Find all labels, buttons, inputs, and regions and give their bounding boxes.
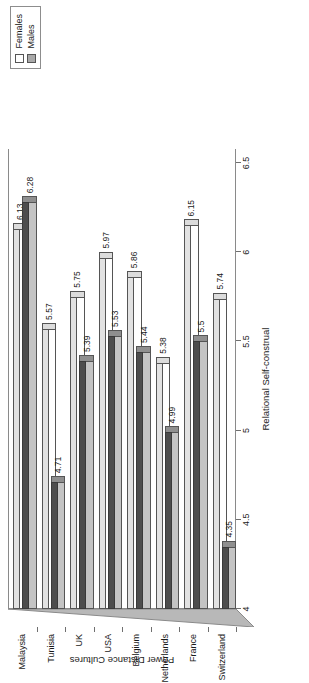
bar-top-face	[184, 225, 191, 609]
bar-value-label: 5.5	[196, 321, 206, 333]
bar-front-face	[199, 341, 208, 609]
bar-top-face	[70, 297, 77, 609]
bar-top-face	[99, 258, 106, 609]
bar-top-face	[222, 547, 229, 609]
legend-item-males: Males	[27, 14, 36, 63]
value-axis-tick-label: 4	[241, 606, 251, 611]
bar-top-face	[22, 202, 29, 609]
value-axis-title: Relational Self-construal	[260, 149, 271, 609]
chart-legend: Females Males	[10, 6, 41, 69]
bar-front-face	[114, 336, 123, 609]
category-axis-tick-label: UK	[74, 634, 84, 647]
bar-top-face	[136, 352, 143, 609]
plot-area: 5.744.356.155.55.384.995.865.445.975.535…	[8, 149, 254, 627]
bar-value-label: 5.97	[101, 232, 111, 249]
bar-front-face	[85, 361, 94, 609]
bar-value-label: 5.38	[158, 337, 168, 354]
bar-top-face	[213, 299, 220, 609]
bar-males-belgium	[136, 352, 151, 609]
bar-males-uk	[79, 361, 94, 609]
bar-front-face	[142, 352, 151, 609]
category-axis-title: Power Distance Cultures	[8, 653, 236, 667]
bar-males-usa	[108, 336, 123, 609]
bar-value-label: 6.28	[25, 177, 35, 194]
bar-males-france	[193, 341, 208, 609]
value-axis: 44.555.566.5	[236, 149, 254, 609]
bar-top-face	[79, 361, 86, 609]
bar-males-switzerland	[222, 547, 237, 609]
value-axis-tick-label: 6	[241, 250, 251, 255]
bar-males-tunisia	[51, 482, 66, 609]
legend-label-females: Females	[15, 14, 24, 49]
value-axis-tick-label: 6.5	[241, 157, 251, 170]
filled-square-marker-icon	[27, 54, 36, 63]
value-axis-tick-label: 5	[241, 428, 251, 433]
bar-top-face	[165, 432, 172, 609]
bar-value-label: 4.71	[53, 457, 63, 474]
bar-value-label: 4.35	[224, 521, 234, 538]
bar-value-label: 5.75	[72, 271, 82, 288]
bar-value-label: 5.39	[82, 335, 92, 352]
bar-series-container: 5.744.356.155.55.384.995.865.445.975.535…	[8, 149, 236, 609]
open-square-marker-icon	[15, 54, 24, 63]
category-axis-tick	[151, 627, 152, 632]
category-axis-tick	[37, 627, 38, 632]
bar-top-face	[13, 229, 20, 609]
category-axis-tick	[236, 627, 237, 632]
legend-item-females: Females	[15, 14, 24, 63]
bar-value-label: 5.53	[110, 311, 120, 328]
bar-front-face	[228, 547, 237, 609]
value-axis-tick-label: 4.5	[241, 514, 251, 527]
bar-males-netherlands	[165, 432, 180, 609]
legend-label-males: Males	[27, 25, 36, 49]
bar-value-label: 6.15	[186, 200, 196, 217]
bar-males-malaysia	[22, 202, 37, 609]
category-axis-tick	[94, 627, 95, 632]
bar-value-label: 5.86	[129, 252, 139, 269]
bar-top-face	[42, 329, 49, 609]
category-axis-tick	[179, 627, 180, 632]
bar-front-face	[57, 482, 66, 609]
category-axis-tick	[65, 627, 66, 632]
bar-top-face	[193, 341, 200, 609]
category-axis-tick	[122, 627, 123, 632]
plot-floor-3d	[8, 609, 254, 627]
bar-top-face	[156, 363, 163, 609]
bar-value-label: 4.99	[167, 407, 177, 424]
category-axis-tick	[208, 627, 209, 632]
bar-value-label: 5.44	[139, 327, 149, 344]
bar-value-label: 5.57	[44, 303, 54, 320]
value-axis-tick-label: 5.5	[241, 335, 251, 348]
bar-value-label: 5.74	[215, 273, 225, 290]
bar-front-face	[28, 202, 37, 609]
category-axis-tick-label: USA	[103, 634, 113, 653]
bar-top-face	[127, 277, 134, 609]
bar-top-face	[51, 482, 58, 609]
bar-top-face	[108, 336, 115, 609]
bar-front-face	[171, 432, 180, 609]
